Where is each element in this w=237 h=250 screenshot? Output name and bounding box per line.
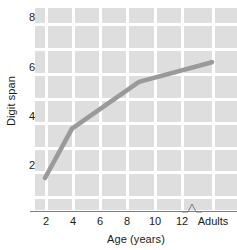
y-tick-label-8: 8	[24, 12, 35, 23]
x-tick-label-10: 10	[149, 215, 161, 227]
y-axis-title: Digit span	[5, 46, 17, 156]
x-tick-label-4: 4	[70, 215, 76, 227]
plot-panel	[35, 8, 237, 210]
y-tick-label-6: 6	[24, 62, 35, 73]
x-tick-label-12: 12	[176, 215, 188, 227]
x-axis-spine	[30, 211, 237, 212]
y-tick-label-2: 2	[24, 160, 35, 171]
y-tick-label-4: 4	[24, 111, 35, 122]
x-tick-label-8: 8	[124, 215, 130, 227]
data-line-series	[35, 8, 237, 210]
chart-figure: Digit span 8 6 4 2 2 4 6 8 10 12	[0, 0, 237, 250]
axis-break-icon	[182, 203, 202, 213]
x-tick-label-6: 6	[97, 215, 103, 227]
x-axis-title: Age (years)	[35, 233, 237, 245]
x-tick-label-2: 2	[43, 215, 49, 227]
x-tick-label-adults: Adults	[198, 215, 229, 227]
